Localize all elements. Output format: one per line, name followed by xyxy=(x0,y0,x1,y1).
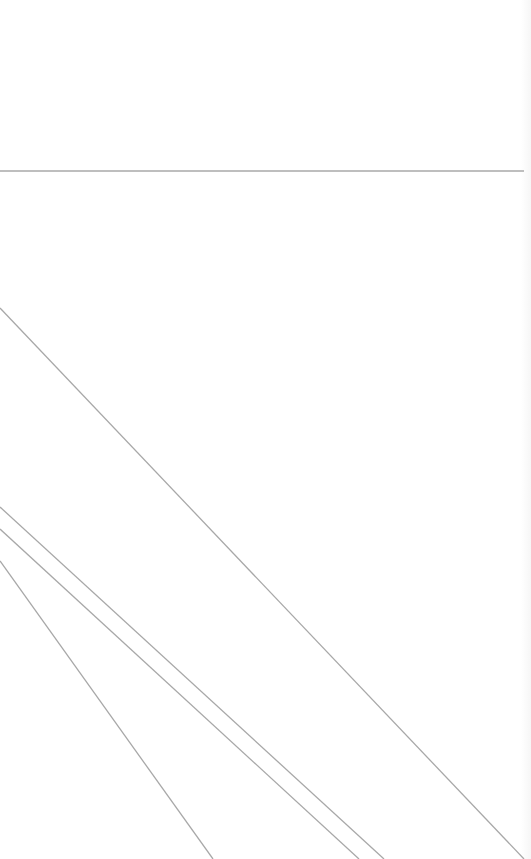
diagonal-line xyxy=(0,308,524,859)
diagonal-line xyxy=(0,529,359,859)
line-group xyxy=(0,171,524,859)
drawing-canvas xyxy=(0,0,531,859)
diagonal-line xyxy=(0,507,384,859)
diagonal-line xyxy=(0,561,213,859)
